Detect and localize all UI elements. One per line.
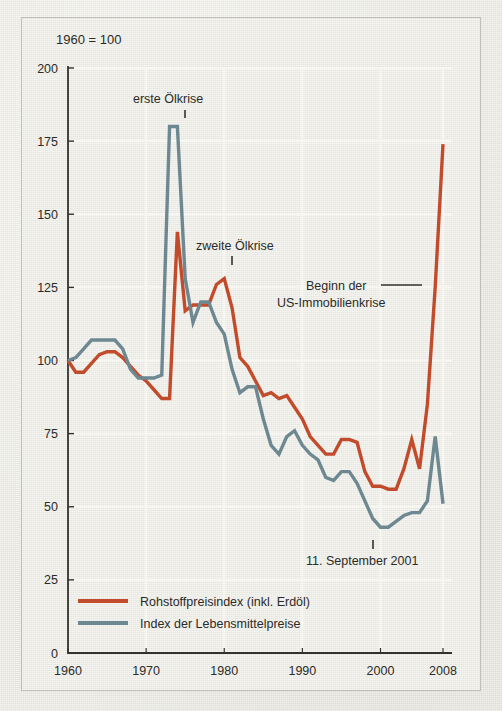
x-tick-label: 2000 [367,664,395,678]
y-tick-label: 200 [37,62,58,76]
x-tick-label: 2008 [429,664,457,678]
x-tick-label: 1990 [288,664,316,678]
annotation-us-immobilienkrise-line2: US-Immobilienkrise [277,296,385,310]
legend-label: Rohstoffpreisindex (inkl. Erdöl) [140,595,310,609]
figure-page: 0255075100125150175200 19601970198019902… [0,0,502,711]
annotation-erste-oelkrise: erste Ölkrise [133,92,203,106]
x-tick-label: 1980 [210,664,238,678]
series-line [68,144,443,489]
x-tick-label: 1970 [132,664,160,678]
series-line [68,127,443,528]
y-tick-label: 100 [37,354,58,368]
x-tick-label: 1960 [54,664,82,678]
line-chart: 0255075100125150175200 19601970198019902… [0,0,502,711]
legend: Rohstoffpreisindex (inkl. Erdöl)Index de… [78,595,310,631]
y-tick-label: 75 [44,427,58,441]
y-tick-label: 150 [37,208,58,222]
y-tick-label: 0 [51,647,58,661]
y-tick-label: 25 [44,573,58,587]
series-layer [68,127,443,528]
legend-label: Index der Lebensmittelpreise [140,617,301,631]
annotation-zweite-oelkrise: zweite Ölkrise [196,239,274,253]
y-tick-label: 175 [37,135,58,149]
y-tick-label: 50 [44,500,58,514]
y-tick-label: 125 [37,281,58,295]
annotation-layer: erste Ölkrise zweite Ölkrise Beginn der … [133,92,422,568]
header-note: 1960 = 100 [56,32,121,47]
annotation-september-2001: 11. September 2001 [306,554,418,568]
annotation-us-immobilienkrise-line1: Beginn der [306,279,366,293]
